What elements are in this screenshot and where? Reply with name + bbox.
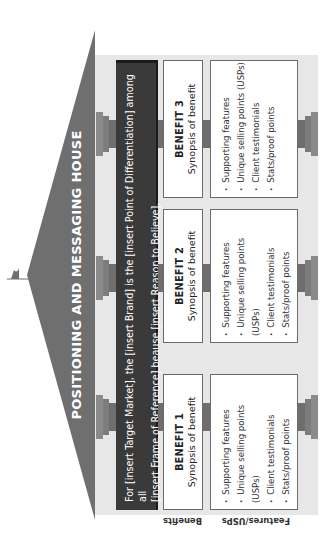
pillar-step <box>109 403 116 431</box>
benefit-box-3: BENEFIT 3 Synopsis of benefit <box>163 60 203 198</box>
pillar-step <box>96 112 103 156</box>
feature-item: Stats/proof points <box>279 375 294 503</box>
benefit-box-2: BENEFIT 2 Synopsis of benefit <box>163 209 203 343</box>
feature-item: Client testimonials <box>264 210 279 336</box>
pillar-base-step <box>311 112 318 156</box>
pillar-base-step <box>311 395 318 439</box>
roof: POSITIONING AND MESSAGING HOUSE <box>27 30 95 520</box>
statement-line-1: For [insert Target Market], the [insert … <box>123 71 149 502</box>
house-title: POSITIONING AND MESSAGING HOUSE <box>69 30 84 520</box>
pillar-step <box>109 264 116 292</box>
feature-item: Supporting features <box>219 375 234 503</box>
positioning-statement: For [insert Target Market], the [insert … <box>116 60 158 510</box>
row-label-features: Features/USPs <box>222 516 290 526</box>
benefit-title: BENEFIT 2 <box>174 210 185 342</box>
row-label-benefits: Benefits <box>163 516 202 526</box>
pillar-base-step <box>298 403 305 431</box>
benefit-title: BENEFIT 1 <box>174 375 185 509</box>
pillar-connector <box>203 403 210 431</box>
feature-item: Unique selling points (USPs) <box>234 210 264 336</box>
benefit-title: BENEFIT 3 <box>174 61 185 197</box>
benefit-subtitle: Synopsis of benefit <box>186 210 197 342</box>
flag-icon <box>5 264 29 294</box>
features-box-1: Supporting features Unique selling point… <box>210 374 298 510</box>
messaging-house-diagram: POSITIONING AND MESSAGING HOUSE For [ins… <box>0 0 336 556</box>
pillar-connector <box>203 264 210 292</box>
pillar-step <box>96 395 103 439</box>
feature-item: Supporting features <box>219 210 234 336</box>
feature-item: Client testimonials <box>264 375 279 503</box>
feature-item: Client testimonials <box>249 61 264 191</box>
pillar-base-step <box>311 256 318 300</box>
benefit-subtitle: Synopsis of benefit <box>186 375 197 509</box>
features-box-2: Supporting features Unique selling point… <box>210 209 298 343</box>
feature-item: Unique selling points (USPs) <box>234 61 249 191</box>
feature-item: Unique selling points (USPs) <box>234 375 264 503</box>
features-box-3: Supporting features Unique selling point… <box>210 60 298 198</box>
pillar-base-step <box>298 120 305 148</box>
benefit-subtitle: Synopsis of benefit <box>186 61 197 197</box>
feature-item: Stats/proof points <box>279 210 294 336</box>
pillar-connector <box>203 120 210 148</box>
feature-item: Supporting features <box>219 61 234 191</box>
benefit-box-1: BENEFIT 1 Synopsis of benefit <box>163 374 203 510</box>
pillar-step <box>96 256 103 300</box>
feature-item: Stats/proof points <box>264 61 279 191</box>
pillar-step <box>109 120 116 148</box>
pillar-base-step <box>298 264 305 292</box>
